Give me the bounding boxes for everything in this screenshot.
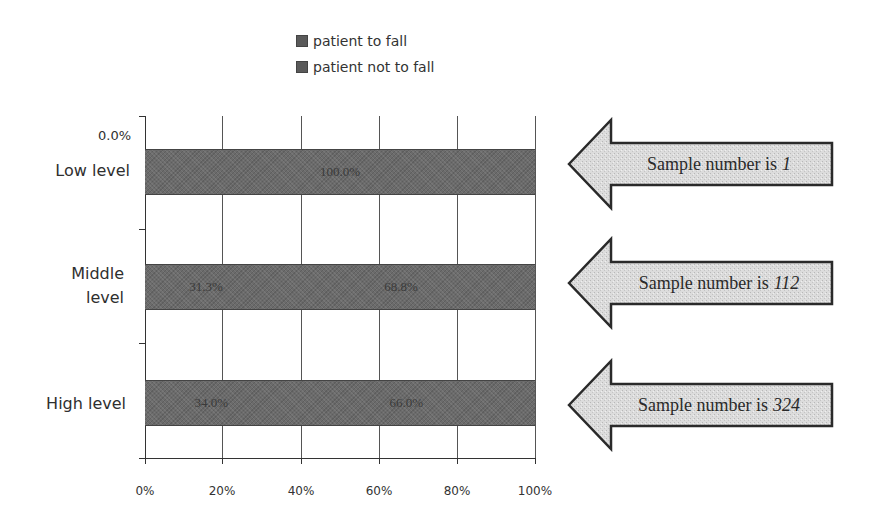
category-label-middle-line1: Middle: [30, 262, 124, 286]
sample-number-text: Sample number is324: [618, 358, 820, 452]
y-tick: [139, 116, 146, 117]
legend-label: patient not to fall: [313, 59, 434, 75]
bar-segment-not-fall: 66.0%: [278, 381, 535, 425]
x-tick: [379, 458, 380, 464]
legend-swatch-icon: [296, 61, 308, 73]
data-label: 31.3%: [189, 279, 223, 295]
x-tick-label: 40%: [288, 484, 315, 498]
legend-item-patient-to-fall: patient to fall: [296, 28, 434, 54]
chart-legend: patient to fall patient not to fall: [296, 28, 434, 80]
x-tick-label: 100%: [518, 484, 552, 498]
bar-middle-level: 31.3% 68.8%: [145, 264, 535, 310]
gridline-100: [535, 116, 536, 458]
bar-high-level: 34.0% 66.0%: [145, 380, 535, 426]
legend-item-patient-not-to-fall: patient not to fall: [296, 54, 434, 80]
category-label-low: Low level: [30, 159, 130, 183]
data-label: 100.0%: [320, 164, 360, 180]
y-tick: [139, 343, 146, 344]
x-tick: [457, 458, 458, 464]
y-tick: [139, 229, 146, 230]
x-tick-label: 60%: [366, 484, 393, 498]
x-tick-label: 20%: [209, 484, 236, 498]
data-label: 68.8%: [384, 279, 418, 295]
sample-arrow-high: Sample number is324: [566, 358, 836, 452]
x-tick: [535, 458, 536, 464]
sample-arrow-low: Sample number is1: [566, 117, 836, 211]
x-tick: [145, 458, 146, 464]
x-tick: [222, 458, 223, 464]
x-axis: [145, 458, 535, 459]
bar-segment-fall: 34.0%: [145, 381, 278, 425]
x-tick-label: 0%: [135, 484, 154, 498]
data-label: 66.0%: [389, 395, 423, 411]
bar-segment-not-fall: 68.8%: [267, 265, 535, 309]
data-label: 34.0%: [195, 395, 229, 411]
sample-arrow-middle: Sample number is112: [566, 236, 836, 330]
x-tick-label: 80%: [444, 484, 471, 498]
zero-data-label: 0.0%: [98, 128, 131, 143]
legend-label: patient to fall: [313, 33, 407, 49]
legend-swatch-icon: [296, 35, 308, 47]
category-label-high: High level: [20, 392, 126, 416]
bar-low-level: 100.0%: [145, 149, 535, 195]
x-tick: [301, 458, 302, 464]
bar-segment-not-fall: 100.0%: [145, 150, 535, 194]
category-label-middle-line2: level: [30, 286, 124, 310]
sample-number-text: Sample number is112: [618, 236, 820, 330]
bar-segment-fall: 31.3%: [145, 265, 267, 309]
sample-number-text: Sample number is1: [618, 117, 820, 211]
